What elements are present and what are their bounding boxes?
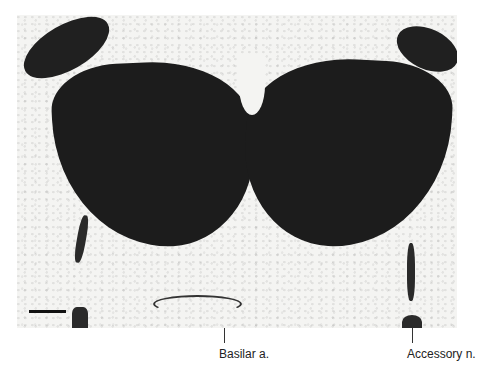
label-accessory-nerve: Accessory n. — [407, 347, 476, 361]
basilar-leader-line — [224, 328, 225, 343]
scale-bar — [29, 310, 66, 313]
accessory-nerve-root — [402, 315, 422, 328]
tissue-fragment-left — [72, 307, 88, 328]
midline-notch — [239, 55, 265, 115]
vessel-right — [407, 243, 415, 301]
micrograph-figure — [17, 15, 457, 328]
label-basilar-artery: Basilar a. — [219, 347, 269, 361]
basilar-artery — [153, 295, 242, 313]
accessory-leader-line — [412, 328, 413, 343]
